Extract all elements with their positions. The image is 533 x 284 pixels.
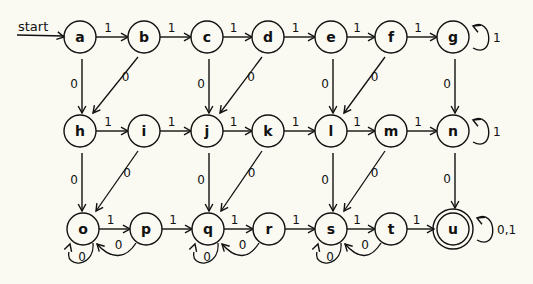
state-e[interactable]: e	[315, 21, 347, 53]
state-label: a	[75, 29, 84, 45]
automaton-diagram: 111111111111111111110,100000000000000000…	[0, 0, 533, 284]
transition-label: 1	[168, 115, 176, 129]
state-s[interactable]: s	[315, 213, 347, 245]
transition-label: 1	[414, 21, 422, 35]
transition-label: 1	[104, 115, 112, 129]
state-label: t	[388, 221, 395, 237]
transition-d-j: 0	[220, 57, 262, 113]
transition-b-c: 1	[160, 21, 191, 41]
state-o[interactable]: o	[67, 213, 99, 245]
state-a[interactable]: a	[64, 21, 96, 53]
transition-s-t: 1	[347, 213, 375, 233]
states-layer: abcdefghijklmnopqrstu	[64, 21, 473, 249]
transition-label: 0	[321, 173, 329, 187]
state-k[interactable]: k	[252, 115, 284, 147]
arrowhead-icon	[473, 119, 481, 126]
transition-t-u: 1	[407, 213, 434, 233]
state-m[interactable]: m	[375, 115, 407, 147]
transition-label: 1	[292, 213, 300, 227]
state-n[interactable]: n	[437, 115, 469, 147]
transition-label: 1	[104, 21, 112, 35]
transition-o-o: 0	[64, 243, 93, 264]
arrowhead-icon	[344, 203, 351, 211]
state-label: e	[326, 29, 336, 45]
transition-a-b: 1	[96, 21, 128, 41]
transition-p-o: 0	[97, 238, 136, 256]
state-label: k	[263, 123, 273, 139]
start-arrow: start	[17, 19, 64, 39]
state-q[interactable]: q	[192, 213, 224, 245]
state-label: n	[448, 123, 458, 139]
transition-label: 0	[70, 77, 78, 91]
transition-label: 1	[493, 31, 501, 45]
state-f[interactable]: f	[375, 21, 407, 53]
transition-g-n: 0	[443, 59, 459, 113]
transition-f-g: 1	[407, 21, 437, 41]
transition-j-q: 0	[197, 153, 213, 211]
state-diagram-svg: 111111111111111111110,100000000000000000…	[0, 0, 533, 284]
transition-d-e: 1	[284, 21, 315, 41]
transition-label: 0	[443, 77, 451, 91]
arrowhead-icon	[477, 217, 485, 224]
state-r[interactable]: r	[253, 213, 285, 245]
state-label: m	[384, 123, 399, 139]
transition-label: 0	[248, 166, 256, 180]
state-h[interactable]: h	[64, 115, 96, 147]
transition-label: 0	[78, 250, 86, 264]
transition-p-q: 1	[162, 213, 192, 233]
arrowhead-icon	[221, 203, 228, 211]
transition-q-q: 0	[189, 243, 218, 264]
transition-r-s: 1	[285, 213, 315, 233]
transition-e-f: 1	[347, 21, 375, 41]
transition-b-h: 0	[93, 57, 138, 113]
state-label: r	[266, 221, 273, 237]
transition-l-s: 0	[321, 153, 337, 211]
transition-t-s: 0	[345, 238, 381, 256]
state-label: j	[204, 123, 210, 139]
state-b[interactable]: b	[128, 21, 160, 53]
state-l[interactable]: l	[315, 115, 347, 147]
transition-i-j: 1	[160, 115, 191, 135]
transition-label: 1	[292, 21, 300, 35]
arrowhead-icon	[189, 244, 196, 252]
arrowhead-icon	[96, 203, 103, 211]
state-j[interactable]: j	[191, 115, 223, 147]
transition-k-q: 0	[221, 151, 262, 211]
transition-label: 1	[353, 213, 361, 227]
transition-label: 0,1	[497, 223, 516, 237]
state-i[interactable]: i	[128, 115, 160, 147]
state-label: i	[142, 123, 147, 139]
arrowhead-icon	[64, 244, 71, 252]
start-label: start	[18, 19, 48, 34]
transition-c-d: 1	[223, 21, 252, 41]
transition-q-r: 1	[224, 213, 253, 233]
state-label: q	[203, 221, 213, 237]
state-t[interactable]: t	[375, 213, 407, 245]
transition-label: 1	[413, 213, 421, 227]
transition-r-q: 0	[222, 238, 259, 256]
transition-label: 1	[107, 213, 115, 227]
transition-label: 0	[123, 166, 131, 180]
transition-label: 1	[230, 21, 238, 35]
transition-label: 0	[371, 166, 379, 180]
state-d[interactable]: d	[252, 21, 284, 53]
state-label: b	[139, 29, 149, 45]
state-c[interactable]: c	[191, 21, 223, 53]
arrowhead-icon	[312, 244, 319, 252]
state-label: d	[263, 29, 273, 45]
transition-label: 1	[292, 115, 300, 129]
transition-label: 1	[169, 213, 177, 227]
transition-label: 0	[197, 173, 205, 187]
transition-h-o: 0	[70, 153, 86, 211]
transition-label: 0	[122, 70, 130, 84]
transition-s-s: 0	[312, 243, 341, 264]
transition-u-u: 0,1	[477, 217, 516, 243]
state-label: u	[448, 221, 458, 237]
state-label: f	[388, 29, 395, 45]
state-u[interactable]: u	[433, 209, 473, 249]
transition-label: 0	[321, 77, 329, 91]
state-p[interactable]: p	[130, 213, 162, 245]
transition-label: 0	[239, 238, 247, 252]
state-g[interactable]: g	[437, 21, 469, 53]
transition-label: 1	[353, 21, 361, 35]
